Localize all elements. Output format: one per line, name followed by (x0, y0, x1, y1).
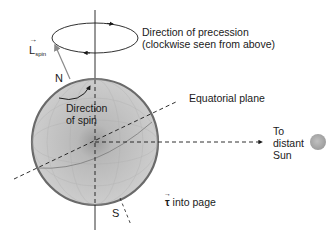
precession-label: Direction of precession (clockwise seen … (142, 26, 275, 50)
torque-label: τ into page (165, 196, 216, 208)
torque-symbol: τ (165, 196, 170, 208)
equatorial-plane-label: Equatorial plane (189, 92, 265, 104)
north-label: N (55, 72, 63, 84)
l-spin-symbol: L (29, 44, 35, 56)
sun-disc (310, 134, 326, 150)
torque-text: into page (170, 196, 216, 208)
l-spin-subscript: spin (35, 51, 46, 57)
precession-arrow-top-icon (107, 23, 113, 24)
south-label: S (112, 207, 119, 219)
l-spin-label: Lspin (29, 44, 46, 57)
to-sun-label: To distant Sun (273, 125, 304, 161)
spin-direction-label: Direction of spin (66, 102, 107, 126)
spin-axis-south (120, 198, 131, 225)
